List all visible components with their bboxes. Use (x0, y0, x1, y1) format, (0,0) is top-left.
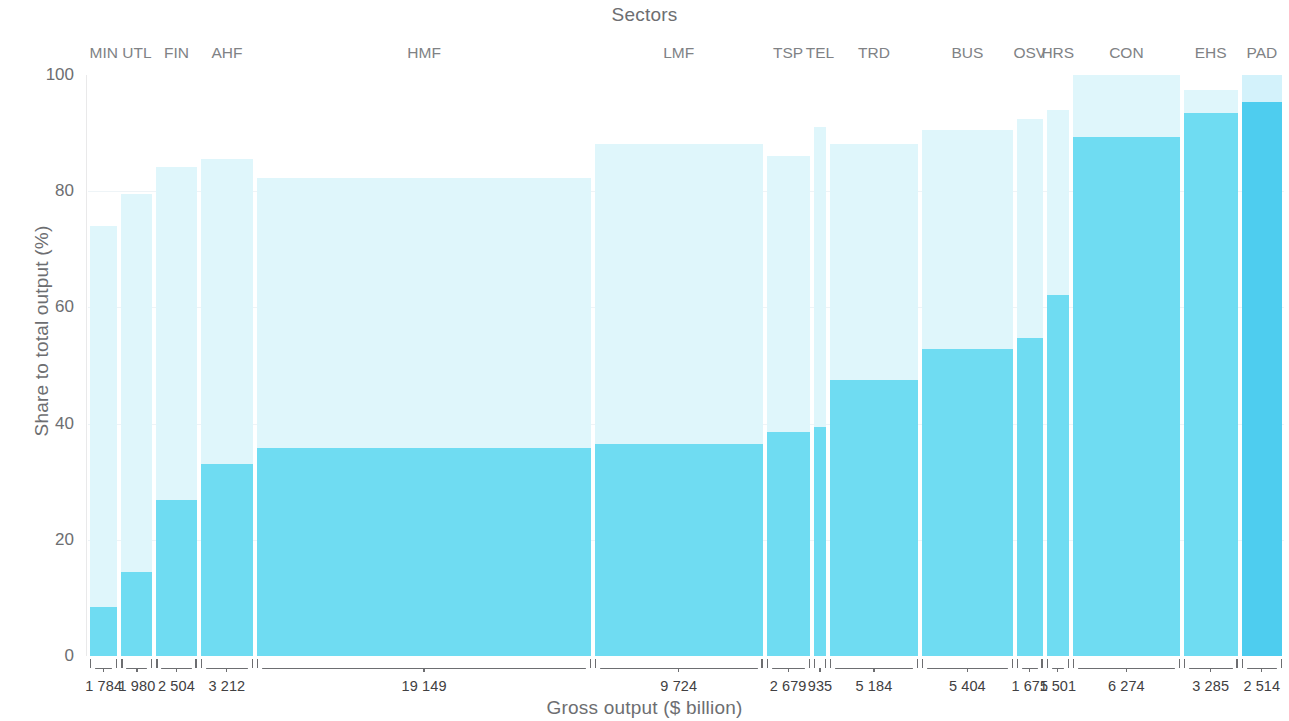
bar-trd[interactable] (830, 144, 917, 656)
value-label-ehs: 3 285 (1192, 678, 1229, 694)
bracket-pad (1242, 658, 1282, 671)
column-osv[interactable] (1015, 75, 1045, 656)
bar-segment-lower-lmf (595, 444, 763, 656)
value-label-bus: 5 404 (949, 678, 986, 694)
bar-hmf[interactable] (257, 178, 591, 656)
bar-segment-lower-utl (121, 572, 152, 656)
y-axis-tick-100: 100 (46, 65, 74, 85)
y-axis: 020406080100 (0, 0, 88, 721)
bar-hrs[interactable] (1047, 110, 1069, 656)
column-min[interactable] (88, 75, 119, 656)
value-label-pad: 2 514 (1243, 678, 1280, 694)
y-axis-line (86, 75, 87, 656)
mosaic-chart: Sectors Share to total output (%) Gross … (0, 0, 1289, 721)
bar-segment-lower-ahf (201, 464, 254, 656)
value-label-hmf: 19 149 (402, 678, 447, 694)
value-label-tel: 935 (808, 678, 833, 694)
column-tsp[interactable] (765, 75, 812, 656)
bracket-utl (121, 658, 152, 671)
sector-label-con: CON (1109, 44, 1143, 62)
bar-bus[interactable] (922, 130, 1013, 656)
column-hrs[interactable] (1045, 75, 1071, 656)
bracket-min (90, 658, 117, 671)
sector-label-hmf: HMF (407, 44, 441, 62)
bracket-osv (1017, 658, 1043, 671)
value-label-tsp: 2 679 (770, 678, 807, 694)
y-axis-tick-40: 40 (55, 414, 74, 434)
bar-osv[interactable] (1017, 119, 1043, 656)
x-axis-brackets (88, 658, 1284, 674)
bar-fin[interactable] (156, 167, 196, 656)
bar-lmf[interactable] (595, 144, 763, 656)
bar-segment-lower-tel (814, 427, 826, 656)
value-label-con: 6 274 (1108, 678, 1145, 694)
bar-segment-lower-bus (922, 349, 1013, 656)
bracket-hmf (257, 658, 591, 671)
bar-segment-lower-min (90, 607, 117, 656)
column-tel[interactable] (812, 75, 828, 656)
bracket-hrs (1047, 658, 1069, 671)
bar-segment-lower-osv (1017, 338, 1043, 656)
bracket-tel (814, 658, 826, 671)
bracket-tsp (767, 658, 810, 671)
bar-segment-lower-pad (1242, 102, 1282, 656)
sector-label-ahf: AHF (211, 44, 242, 62)
value-label-lmf: 9 724 (660, 678, 697, 694)
bracket-bus (922, 658, 1013, 671)
y-axis-tick-0: 0 (65, 646, 74, 666)
bar-segment-lower-ehs (1184, 113, 1238, 656)
bracket-con (1073, 658, 1180, 671)
bar-segment-lower-hrs (1047, 295, 1069, 656)
sector-label-ehs: EHS (1195, 44, 1227, 62)
bar-segment-lower-tsp (767, 432, 810, 656)
bar-tsp[interactable] (767, 156, 810, 656)
column-pad[interactable] (1240, 75, 1284, 656)
y-axis-tick-80: 80 (55, 181, 74, 201)
bracket-ahf (201, 658, 254, 671)
value-label-min: 1 784 (85, 678, 122, 694)
sector-label-bus: BUS (951, 44, 983, 62)
bar-utl[interactable] (121, 194, 152, 656)
chart-top-title: Sectors (0, 4, 1289, 26)
bracket-ehs (1184, 658, 1238, 671)
column-utl[interactable] (119, 75, 154, 656)
bar-pad[interactable] (1242, 75, 1282, 656)
value-label-hrs: 1 501 (1039, 678, 1076, 694)
value-label-utl: 1 980 (119, 678, 156, 694)
sector-label-tel: TEL (806, 44, 834, 62)
bar-ahf[interactable] (201, 159, 254, 656)
value-label-fin: 2 504 (158, 678, 195, 694)
bracket-lmf (595, 658, 763, 671)
sector-label-hrs: HRS (1041, 44, 1074, 62)
column-hmf[interactable] (255, 75, 593, 656)
column-fin[interactable] (154, 75, 198, 656)
value-label-ahf: 3 212 (208, 678, 245, 694)
column-lmf[interactable] (593, 75, 765, 656)
bar-ehs[interactable] (1184, 90, 1238, 656)
y-axis-tick-60: 60 (55, 297, 74, 317)
plot-area (88, 75, 1284, 656)
bar-segment-lower-hmf (257, 448, 591, 656)
bar-tel[interactable] (814, 127, 826, 656)
value-label-trd: 5 184 (856, 678, 893, 694)
sector-label-lmf: LMF (663, 44, 694, 62)
bar-segment-lower-fin (156, 500, 196, 656)
sector-label-trd: TRD (858, 44, 890, 62)
bar-segment-lower-con (1073, 137, 1180, 656)
column-bus[interactable] (920, 75, 1015, 656)
bar-min[interactable] (90, 226, 117, 656)
x-axis-title: Gross output ($ billion) (0, 697, 1289, 719)
sector-label-pad: PAD (1246, 44, 1277, 62)
bar-segment-lower-trd (830, 380, 917, 656)
column-con[interactable] (1071, 75, 1182, 656)
sector-label-utl: UTL (122, 44, 151, 62)
column-ehs[interactable] (1182, 75, 1240, 656)
bracket-trd (830, 658, 917, 671)
column-trd[interactable] (828, 75, 919, 656)
sector-label-tsp: TSP (773, 44, 803, 62)
column-ahf[interactable] (199, 75, 256, 656)
bar-con[interactable] (1073, 75, 1180, 656)
sector-label-fin: FIN (164, 44, 189, 62)
sector-label-min: MIN (90, 44, 118, 62)
y-axis-tick-20: 20 (55, 530, 74, 550)
